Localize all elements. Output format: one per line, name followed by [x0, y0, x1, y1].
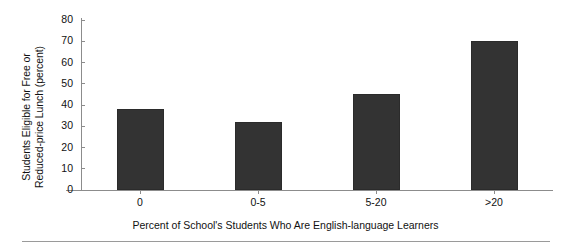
y-axis-tick-mark: [81, 20, 85, 21]
y-axis-tick-label: 0: [47, 183, 73, 195]
y-axis-tick-mark: [81, 168, 85, 169]
footer-divider: [22, 241, 550, 242]
x-axis-tick-mark: [258, 191, 259, 194]
y-axis-title: Students Eligible for Free or Reduced-pr…: [20, 22, 46, 212]
y-axis-tick-mark: [81, 83, 85, 84]
x-axis-tick-label: 0: [100, 196, 180, 208]
x-axis-tick-label: 0-5: [218, 196, 298, 208]
y-axis-tick-label: 10: [47, 162, 73, 174]
y-axis-tick-label: 20: [47, 141, 73, 153]
x-axis-tick-mark: [494, 191, 495, 194]
y-axis-tick-mark: [81, 105, 85, 106]
y-axis-tick-mark: [81, 147, 85, 148]
y-axis-tick-label: 30: [47, 119, 73, 131]
x-axis-tick-mark: [140, 191, 141, 194]
y-axis-tick-mark: [81, 41, 85, 42]
y-axis-tick-mark: [81, 62, 85, 63]
y-axis-title-line-2: Reduced-price Lunch (percent): [33, 22, 46, 212]
plot-area: 01020304050607080: [81, 20, 553, 190]
y-axis-tick-label: 80: [47, 13, 73, 25]
y-axis-tick-mark: [81, 126, 85, 127]
y-axis-tick-label: 40: [47, 98, 73, 110]
y-axis-tick-label: 60: [47, 56, 73, 68]
bar: [471, 41, 518, 190]
y-axis-tick-label: 50: [47, 77, 73, 89]
y-axis-tick-mark: [81, 190, 85, 191]
y-axis-title-line-1: Students Eligible for Free or: [20, 22, 33, 212]
y-axis-tick-label: 70: [47, 34, 73, 46]
x-axis-tick-label: 5-20: [336, 196, 416, 208]
x-axis-tick-mark: [376, 191, 377, 194]
bar: [235, 122, 282, 190]
x-axis-tick-label: >20: [454, 196, 534, 208]
x-axis-title: Percent of School's Students Who Are Eng…: [0, 219, 571, 231]
bar: [117, 109, 164, 190]
bar-chart-figure: Students Eligible for Free or Reduced-pr…: [0, 0, 571, 249]
bar: [353, 94, 400, 190]
